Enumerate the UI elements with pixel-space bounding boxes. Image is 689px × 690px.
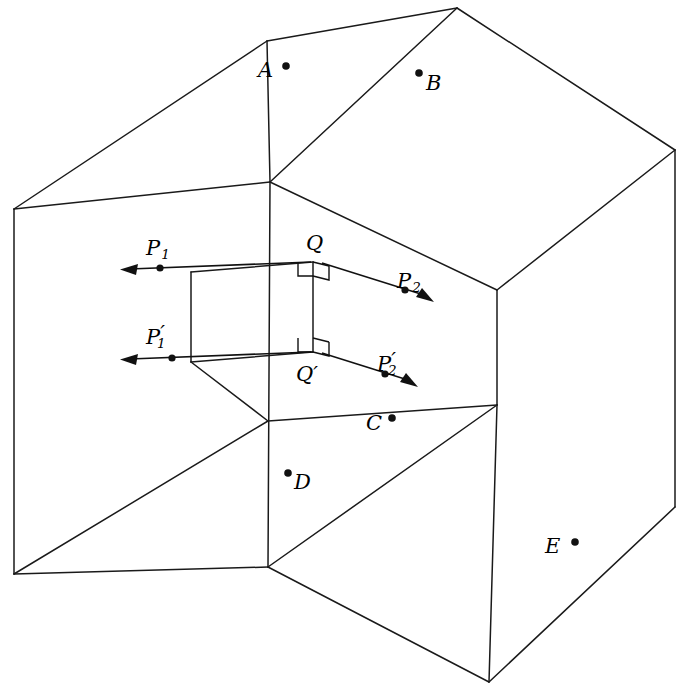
label-Q-prime-mark2: ′ (313, 362, 318, 386)
label-P1-prime-sub: 1 (157, 335, 166, 351)
label-P2-prime-sub: 2 (388, 362, 397, 378)
point-dot-E (571, 538, 579, 546)
point-dot-D (284, 469, 292, 477)
edge-bottom-left-ridge (14, 567, 268, 574)
label-E-text: E (545, 534, 560, 558)
label-D: D (294, 470, 311, 494)
point-dot-A (282, 62, 290, 70)
edge-niche-bottom-floor-left (191, 362, 268, 421)
label-P1-base: P (146, 236, 160, 260)
label-P2: P2 (397, 269, 420, 293)
edge-bottom-front-apex (268, 567, 489, 682)
edge-interior-floor-left (14, 421, 268, 574)
edge-interior-floor-apex-to-bottom (489, 405, 497, 682)
label-C-text: C (366, 411, 382, 435)
right-angle-Q-right-square (313, 266, 329, 280)
edge-interior-apex-diagonal-top (270, 8, 457, 182)
label-P2-prime: P′2 (377, 352, 405, 376)
label-E: E (545, 534, 560, 558)
inner-niche-box (191, 262, 313, 421)
point-dot-B (415, 69, 423, 77)
label-D-text: D (294, 470, 311, 494)
edge-interior-floor-right (268, 405, 497, 421)
right-angle-Q-left-square (298, 262, 313, 276)
ray-P1-prime-arrowhead (120, 354, 138, 365)
label-P2-base: P (397, 269, 411, 293)
label-C: C (366, 411, 382, 435)
ray-P1-prime-line (130, 352, 311, 359)
ray-P1-arrowhead (120, 264, 138, 275)
label-Q-prime-text: Q (296, 362, 313, 386)
ray-P1-point-dot (156, 264, 163, 271)
edge-top-left-ridge (14, 41, 267, 209)
cube-outer-edges (14, 8, 675, 682)
point-dot-C (388, 414, 396, 422)
labeled-point-dots (282, 62, 579, 546)
label-Q-prime: Q′ (296, 362, 318, 386)
label-B-text: B (426, 71, 441, 95)
right-angle-Qp-left-square (298, 338, 313, 352)
edge-interior-top-left (14, 182, 270, 209)
label-P1-sub: 1 (161, 246, 170, 262)
edge-bottom-apex-to-right (489, 507, 675, 682)
label-A: A (258, 58, 273, 82)
label-A-text: A (258, 58, 273, 82)
label-P2-sub: 2 (412, 279, 421, 295)
edge-interior-right-to-apex (497, 150, 675, 290)
label-Q: Q (306, 231, 323, 255)
right-angle-Qp-right-square-top (313, 338, 329, 342)
geometry-figure: A B C D E Q Q′ P1 P2 P′1 P′2 (0, 0, 689, 690)
edge-top-apex-to-right (457, 8, 675, 150)
cube-corner-diagram (0, 0, 689, 690)
label-P1-prime: P′1 (146, 325, 174, 349)
label-Q-text: Q (306, 231, 323, 255)
label-B: B (426, 71, 441, 95)
edge-interior-top-right (270, 182, 497, 290)
ray-P1-prime-point-dot (168, 354, 175, 361)
cube-interior-corner (14, 8, 675, 682)
edge-interior-vertical-center (268, 182, 270, 567)
edge-top-ridge-to-apex (267, 8, 457, 41)
label-P1: P1 (146, 236, 169, 260)
